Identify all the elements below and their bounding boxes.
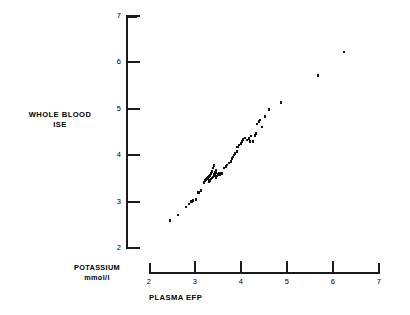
units-caption: POTASSIUM mmol/l bbox=[52, 263, 142, 283]
x-axis-title: PLASMA EFP bbox=[149, 293, 202, 303]
x-axis-cap-right bbox=[378, 263, 380, 274]
x-axis-tick bbox=[194, 261, 196, 274]
y-axis-tick-label: 2 bbox=[107, 244, 121, 252]
y-axis-tick-label: 4 bbox=[107, 151, 121, 159]
y-axis-title: WHOLE BLOOD ISE bbox=[14, 110, 106, 130]
data-point bbox=[255, 132, 258, 135]
units-caption-line2: mmol/l bbox=[52, 273, 142, 283]
x-axis-tick bbox=[240, 261, 242, 274]
y-axis-tick-label: 6 bbox=[107, 58, 121, 66]
y-axis-title-line2: ISE bbox=[14, 120, 106, 130]
x-axis-tick-label: 5 bbox=[279, 277, 295, 286]
data-point bbox=[177, 214, 180, 217]
data-point bbox=[169, 219, 172, 222]
data-point bbox=[343, 51, 346, 54]
x-axis-tick-label: 4 bbox=[233, 277, 249, 286]
data-point bbox=[195, 198, 198, 201]
units-caption-line1: POTASSIUM bbox=[74, 263, 120, 272]
x-axis-cap-left bbox=[149, 263, 151, 274]
data-point bbox=[259, 119, 262, 122]
y-axis-title-line1: WHOLE BLOOD bbox=[29, 110, 92, 119]
x-axis-tick-label: 6 bbox=[325, 277, 341, 286]
y-axis-tick-label: 5 bbox=[107, 105, 121, 113]
y-axis-tick-label: 3 bbox=[107, 198, 121, 206]
data-point bbox=[317, 74, 320, 77]
y-axis-tick bbox=[126, 15, 140, 17]
y-axis-tick bbox=[126, 201, 140, 203]
data-point bbox=[188, 203, 191, 206]
y-axis-tick bbox=[126, 154, 140, 156]
x-axis-line bbox=[149, 272, 380, 274]
y-axis-tick bbox=[126, 61, 140, 63]
data-point bbox=[250, 135, 253, 138]
y-axis-line bbox=[126, 16, 128, 249]
scatter-plot-figure: WHOLE BLOOD ISE POTASSIUM mmol/l PLASMA … bbox=[0, 0, 410, 315]
data-point bbox=[248, 137, 251, 140]
data-point bbox=[203, 181, 206, 184]
data-point bbox=[240, 142, 243, 145]
data-point bbox=[236, 150, 239, 153]
data-point bbox=[268, 108, 271, 111]
data-point bbox=[211, 170, 214, 173]
y-axis-tick bbox=[126, 108, 140, 110]
data-point bbox=[261, 126, 264, 129]
plot-area bbox=[149, 16, 379, 248]
x-axis-tick-label: 2 bbox=[141, 277, 157, 286]
x-axis-tick bbox=[332, 261, 334, 274]
x-axis-tick bbox=[286, 261, 288, 274]
y-axis-tick bbox=[126, 247, 140, 249]
data-point bbox=[230, 160, 233, 163]
data-point bbox=[185, 206, 188, 209]
data-point bbox=[256, 123, 259, 126]
data-point bbox=[200, 189, 203, 192]
x-axis-tick-label: 3 bbox=[187, 277, 203, 286]
y-axis-tick-label: 7 bbox=[107, 12, 121, 20]
data-point bbox=[212, 167, 215, 170]
data-point bbox=[213, 164, 216, 167]
x-axis-tick-label: 7 bbox=[371, 277, 387, 286]
data-point bbox=[254, 134, 257, 137]
data-point bbox=[252, 140, 255, 143]
data-point bbox=[264, 115, 267, 118]
data-point bbox=[280, 101, 283, 104]
data-point bbox=[221, 172, 224, 175]
